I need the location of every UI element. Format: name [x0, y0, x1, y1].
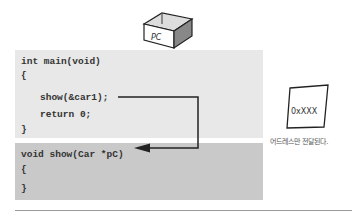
- pc-box-icon: [144, 13, 192, 48]
- arrow-head-icon: [134, 144, 150, 153]
- divider: [15, 210, 352, 211]
- address-value: 0xXXX: [291, 107, 318, 116]
- diagram-graphics: PC 0xXXX: [0, 0, 352, 214]
- pc-box-label: PC: [151, 33, 162, 42]
- address-caption: 어드레스만 전달된다.: [270, 136, 328, 146]
